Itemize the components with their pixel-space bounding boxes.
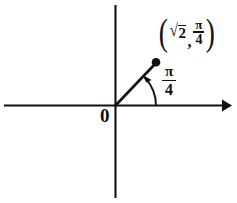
angle-arc-arrowhead-icon bbox=[143, 75, 152, 82]
origin-label: 0 bbox=[100, 106, 110, 125]
polar-coordinate-figure: ( √ 2 , π 4 ) π 4 0 bbox=[0, 0, 237, 203]
coordinate-separator: , bbox=[186, 34, 193, 50]
square-root-of-two: √ 2 bbox=[170, 24, 187, 41]
x-axis-arrowhead-icon bbox=[222, 100, 232, 112]
radicand: 2 bbox=[178, 25, 187, 41]
radical-sign-icon: √ bbox=[170, 23, 178, 40]
close-paren: ) bbox=[206, 17, 215, 48]
fraction-numerator: π bbox=[195, 18, 202, 32]
angle-measure-label: π 4 bbox=[162, 64, 176, 98]
pi-over-four-fraction: π 4 bbox=[193, 18, 204, 48]
plotted-point bbox=[152, 58, 161, 67]
terminal-ray bbox=[116, 65, 155, 106]
point-coordinate-label: ( √ 2 , π 4 ) bbox=[157, 17, 217, 48]
angle-fraction-denominator: 4 bbox=[165, 81, 173, 98]
open-paren: ( bbox=[159, 17, 168, 48]
angle-fraction-numerator: π bbox=[165, 64, 173, 80]
fraction-denominator: 4 bbox=[195, 33, 202, 48]
